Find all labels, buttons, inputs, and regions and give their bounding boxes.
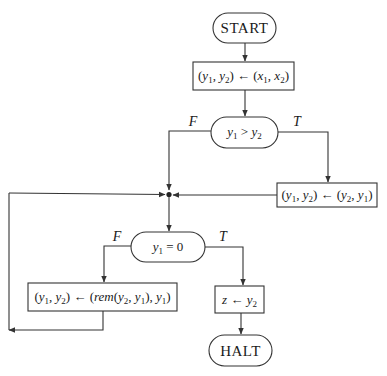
assign-z-label: z ← y2 (221, 292, 257, 309)
label-zero-true: T (219, 229, 228, 244)
edge-zero-false (104, 246, 131, 282)
swap-process-box: (y1, y2) ← (y2, y1) (277, 183, 377, 207)
init-label: (y1, y2) ← (x1, x2) (198, 68, 289, 85)
label-gt-false: F (188, 114, 198, 129)
halt-terminal: HALT (209, 335, 272, 366)
label-gt-true: T (293, 114, 302, 129)
flowchart-canvas: START (y1, y2) ← (x1, x2) y1 > y2 F T (y… (0, 0, 387, 376)
decision-y1-eq-0: y1 = 0 (131, 232, 205, 262)
edge-rem-loop-back (9, 311, 103, 330)
junction-dot (166, 192, 171, 197)
rem-process-box: (y1, y2) ← (rem(y2, y1), y1) (28, 283, 177, 311)
edge-zero-true (205, 247, 243, 285)
halt-label: HALT (220, 343, 261, 359)
edge-loop-into-junction (9, 193, 165, 195)
decision-zero-label: y1 = 0 (151, 239, 184, 256)
label-zero-false: F (112, 229, 122, 244)
assign-z-process-box: z ← y2 (215, 286, 264, 313)
start-label: START (221, 20, 269, 36)
edge-gt-false (169, 131, 211, 190)
swap-label: (y1, y2) ← (y2, y1) (282, 187, 373, 204)
decision-y1-gt-y2: y1 > y2 (211, 117, 278, 148)
edge-gt-true (278, 132, 328, 182)
init-process-box: (y1, y2) ← (x1, x2) (193, 62, 294, 90)
start-terminal: START (213, 13, 276, 43)
rem-label: (y1, y2) ← (rem(y2, y1), y1) (34, 289, 170, 306)
decision-gt-label: y1 > y2 (225, 124, 261, 141)
